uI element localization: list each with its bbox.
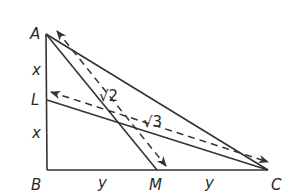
- segment-label-bm: y: [97, 174, 108, 192]
- point-label-a: A: [29, 25, 40, 43]
- segment-label-mc: y: [204, 174, 215, 192]
- segment-lc: [47, 100, 268, 170]
- point-label-b: B: [31, 176, 41, 193]
- segment-label-al: x: [31, 61, 41, 79]
- segment-label-lb: x: [31, 124, 41, 142]
- point-label-m: M: [149, 176, 162, 193]
- point-label-c: C: [271, 176, 282, 193]
- segment-ab: [46, 34, 47, 170]
- measure-label-sqrt2: √2: [99, 87, 118, 105]
- segment-ac: [46, 34, 268, 170]
- point-label-l: L: [31, 91, 39, 109]
- measure-label-sqrt3: √3: [143, 113, 162, 131]
- geometry-diagram: A L B M C x x y y √2 √3: [0, 0, 298, 193]
